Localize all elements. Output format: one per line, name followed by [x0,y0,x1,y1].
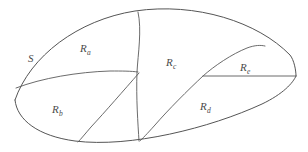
label-re-base: R [240,61,247,73]
divider-ra-rc-arc [137,12,140,141]
region-diagram: S Ra Rb Rc Rd Re [0,0,308,152]
label-rb-base: R [52,103,59,115]
label-re-subscript: e [247,67,250,76]
diagram-canvas [0,0,308,152]
label-re: Re [240,58,250,74]
label-s: S [28,49,34,65]
divider-ra-rb-arc [16,71,138,88]
label-rc: Rc [166,53,176,69]
label-rd: Rd [200,97,210,113]
label-ra-base: R [80,42,87,54]
label-rb: Rb [52,100,62,116]
label-ra-subscript: a [87,48,91,57]
label-ra: Ra [80,39,90,55]
divider-rc-re-arc [203,45,265,76]
label-rc-base: R [166,56,173,68]
label-rb-subscript: b [59,109,63,118]
label-s-base: S [28,52,34,64]
label-rd-base: R [200,100,207,112]
divider-rb-rc-arc [78,73,139,142]
label-rc-subscript: c [173,62,176,71]
label-rd-subscript: d [207,106,211,115]
divider-rc-rd-arc [140,76,203,141]
outer-boundary-top-arc [15,9,296,100]
